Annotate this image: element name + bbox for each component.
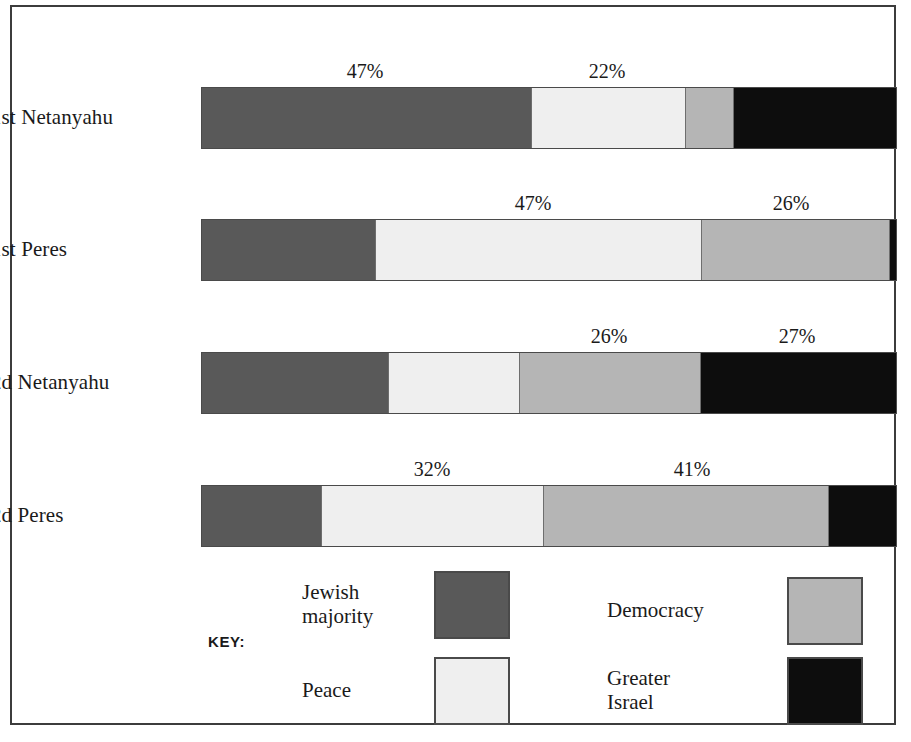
bar-row-label: 2d Peres (0, 505, 191, 526)
bar-segment-jewish-majority (202, 353, 388, 413)
bar-segment-democracy (701, 220, 889, 280)
segment-percent-label: 41% (674, 459, 711, 479)
segment-percent-label: 22% (589, 61, 626, 81)
bar-row-label: 2d Netanyahu (0, 372, 191, 393)
bar-track (201, 219, 897, 281)
bar-track (201, 352, 897, 414)
legend-label-peace: Peace (302, 679, 434, 703)
legend-entry-jewish-majority: Jewish majority (302, 571, 510, 639)
bar-segment-peace (375, 220, 701, 280)
bar-segment-greater-israel (828, 486, 896, 546)
bar-row-label: 1st Peres (0, 239, 191, 260)
legend-entry-greater-israel: Greater Israel (607, 657, 863, 725)
bar-row-label: 1st Netanyahu (0, 107, 191, 128)
bar-segment-jewish-majority (202, 486, 321, 546)
bar-segment-jewish-majority (202, 220, 375, 280)
legend-label-greater-israel: Greater Israel (607, 667, 787, 714)
segment-percent-label: 47% (347, 61, 384, 81)
bar-track (201, 485, 897, 547)
legend-entry-peace: Peace (302, 657, 510, 725)
bar-segment-peace (388, 353, 519, 413)
bar-track (201, 87, 897, 149)
chart-frame: 1st Netanyahu47%22%1st Peres47%26%2d Net… (10, 5, 896, 725)
segment-percent-label: 32% (414, 459, 451, 479)
legend-swatch-greater-israel (787, 657, 863, 725)
segment-percent-label: 26% (591, 326, 628, 346)
legend-entry-democracy: Democracy (607, 577, 863, 645)
bar-segment-jewish-majority (202, 88, 531, 148)
bar-segment-democracy (519, 353, 700, 413)
bar-segment-greater-israel (733, 88, 896, 148)
bar-segment-greater-israel (889, 220, 896, 280)
legend-label-democracy: Democracy (607, 599, 787, 623)
bar-segment-democracy (685, 88, 733, 148)
bar-segment-greater-israel (700, 353, 896, 413)
legend-swatch-jewish-majority (434, 571, 510, 639)
segment-percent-label: 26% (773, 193, 810, 213)
legend-key-label: KEY: (208, 633, 245, 650)
bar-segment-peace (321, 486, 543, 546)
bar-segment-peace (531, 88, 685, 148)
chart-legend: KEY: Jewish majority Peace Democracy Gre… (12, 565, 894, 725)
segment-percent-label: 47% (515, 193, 552, 213)
legend-swatch-democracy (787, 577, 863, 645)
segment-percent-label: 27% (779, 326, 816, 346)
bar-segment-democracy (543, 486, 828, 546)
legend-swatch-peace (434, 657, 510, 725)
legend-label-jewish-majority: Jewish majority (302, 581, 434, 628)
